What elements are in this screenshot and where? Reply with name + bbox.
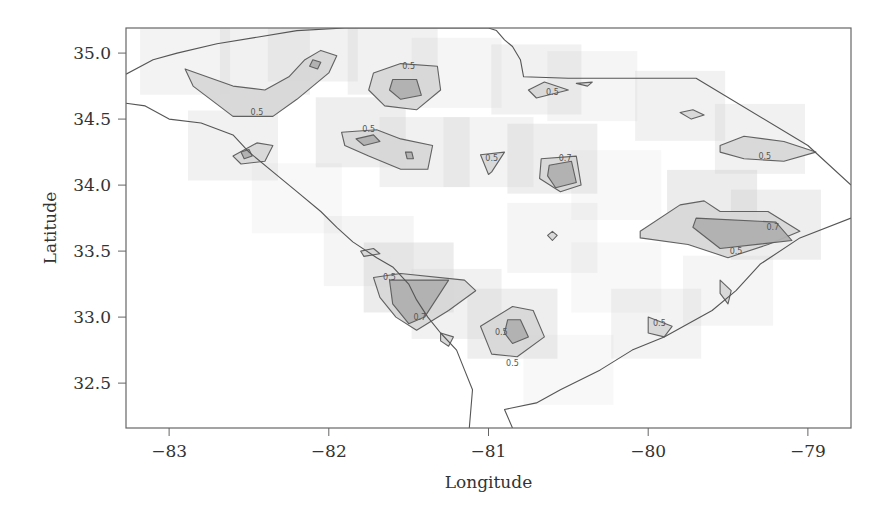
y-tick-label: 32.5 [73, 373, 111, 393]
contour-saluda-spot [406, 152, 414, 159]
contour-label: 0.5 [402, 62, 415, 71]
contour-label: 0.5 [383, 273, 396, 282]
shading-cell [547, 51, 637, 121]
contour-label: 0.5 [362, 125, 375, 134]
contour-label: 0.5 [485, 154, 498, 163]
x-axis: −83−82−81−80−79 [151, 428, 826, 461]
contour-label: 0.5 [506, 359, 519, 368]
x-tick-label: −79 [790, 441, 826, 461]
x-tick-label: −83 [151, 441, 187, 461]
shading-cell [571, 243, 661, 313]
y-tick-label: 33.5 [73, 241, 111, 261]
contour-label: 0.5 [495, 328, 508, 337]
y-axis-title: Latitude [40, 192, 60, 264]
y-tick-label: 35.0 [73, 43, 111, 63]
y-tick-label: 34.5 [73, 109, 111, 129]
contour-label: 0.7 [413, 313, 426, 322]
contour-label: 0.7 [559, 154, 572, 163]
contour-label: 0.5 [251, 108, 264, 117]
x-tick-label: −80 [630, 441, 666, 461]
shading-cell [635, 71, 725, 141]
contour-label: 0.5 [758, 152, 771, 161]
contour-label: 0.7 [766, 223, 779, 232]
y-tick-label: 34.0 [73, 175, 111, 195]
contour-label: 0.5 [546, 88, 559, 97]
contour-label: 0.5 [730, 247, 743, 256]
shading-layer [140, 11, 821, 404]
contour-label: 0.5 [653, 319, 666, 328]
x-tick-label: −82 [311, 441, 347, 461]
contour-map-chart: 0.50.50.50.50.70.50.50.50.70.50.70.50.50… [0, 0, 893, 526]
x-axis-title: Longitude [445, 472, 533, 492]
y-axis: 32.533.033.534.034.535.0 [73, 43, 126, 393]
x-tick-label: −81 [471, 441, 507, 461]
y-tick-label: 33.0 [73, 307, 111, 327]
